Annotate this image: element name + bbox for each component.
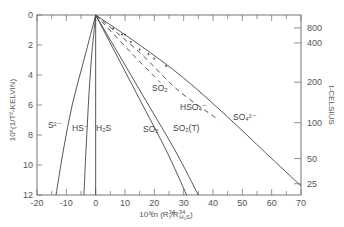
data-point-marker bbox=[112, 28, 114, 30]
right-tick-label: 100 bbox=[307, 118, 322, 128]
curve-label: S²⁻ bbox=[48, 120, 62, 130]
right-tick-label: 50 bbox=[307, 154, 317, 164]
y-tick-label: 12 bbox=[23, 190, 33, 200]
x-axis-title: 10³ℓn (R34i/R34H₂S) bbox=[139, 209, 193, 220]
curve-label: HS⁻ bbox=[72, 123, 89, 133]
data-point-marker bbox=[165, 65, 167, 67]
curve-label: SO₄²⁻ bbox=[233, 112, 257, 122]
right-tick-label: 800 bbox=[307, 23, 322, 33]
right-axis-title: t-CELSIUS bbox=[327, 85, 336, 124]
x-tick-label: 60 bbox=[267, 198, 277, 208]
right-tick-label: 25 bbox=[307, 179, 317, 189]
data-point-marker bbox=[124, 34, 126, 36]
y-tick-label: 2 bbox=[28, 40, 33, 50]
data-point-marker bbox=[139, 49, 141, 51]
curve-label: H₂S bbox=[96, 123, 111, 133]
curve-hs- bbox=[84, 15, 96, 195]
x-tick-label: 20 bbox=[149, 198, 159, 208]
curve-label: SO₂ bbox=[152, 83, 168, 93]
x-tick-label: 10 bbox=[120, 198, 130, 208]
y-tick-label: 4 bbox=[28, 70, 33, 80]
curve-so2-dashed- bbox=[96, 15, 161, 83]
y-tick-label: 8 bbox=[28, 130, 33, 140]
x-tick-label: 70 bbox=[296, 198, 306, 208]
right-tick-label: 200 bbox=[307, 77, 322, 87]
x-tick-label: 0 bbox=[93, 198, 98, 208]
plot-frame bbox=[37, 15, 301, 195]
x-tick-label: 30 bbox=[179, 198, 189, 208]
x-tick-label: 50 bbox=[237, 198, 247, 208]
curve-label: SO₂ bbox=[143, 124, 159, 134]
right-tick-label: 400 bbox=[307, 38, 322, 48]
x-tick-label: 40 bbox=[208, 198, 218, 208]
curve-so2 bbox=[96, 15, 187, 195]
data-point-marker bbox=[148, 53, 150, 55]
curve-label: SO₂(T) bbox=[173, 123, 200, 133]
data-point-marker bbox=[153, 58, 155, 60]
x-tick-label: -10 bbox=[60, 198, 73, 208]
y-tick-label: 6 bbox=[28, 100, 33, 110]
y-axis-title: 10⁶(1/T²-KELVIN) bbox=[8, 79, 17, 142]
data-point-marker bbox=[130, 41, 132, 43]
chart-canvas: -20-100102030405060700246810128004002001… bbox=[0, 0, 344, 227]
curve-s2- bbox=[56, 15, 96, 195]
data-point-marker bbox=[121, 34, 123, 36]
y-tick-label: 10 bbox=[23, 160, 33, 170]
curve-label: HSO₄⁻ bbox=[180, 102, 207, 112]
y-tick-label: 0 bbox=[28, 10, 33, 20]
